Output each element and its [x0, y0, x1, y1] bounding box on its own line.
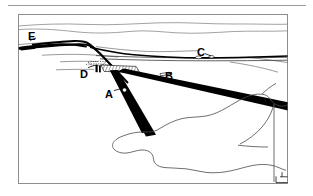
figure-label-d: D — [80, 69, 88, 80]
figure-label-a: A — [105, 89, 113, 100]
figure-label-b: B — [165, 71, 173, 82]
top-horizontal-rule — [8, 5, 306, 6]
figure-label-e: E — [28, 31, 35, 42]
figure-label-c: C — [197, 47, 205, 58]
figure-frame-border — [18, 14, 288, 184]
figure-root: E D A B C — [0, 0, 313, 196]
